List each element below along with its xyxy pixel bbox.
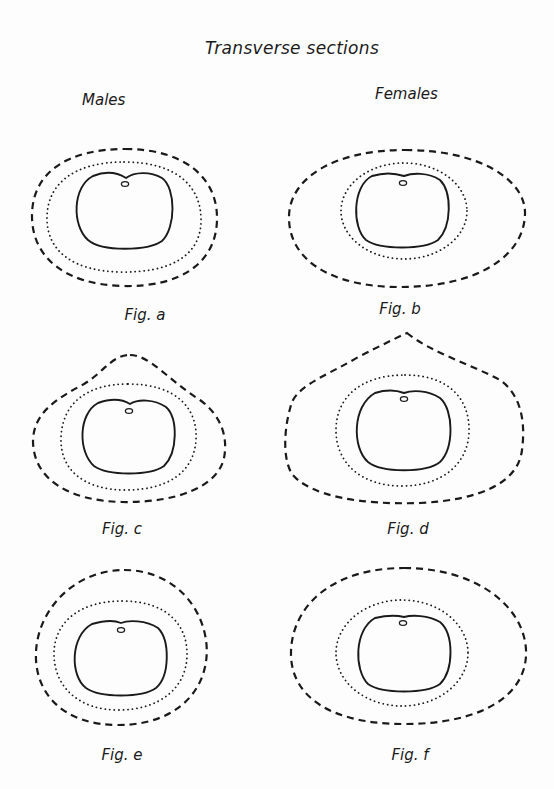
figure-e-label: Fig. e — [101, 746, 142, 764]
figure-b-nucleus-mark — [399, 181, 406, 186]
figure-a-inner-section — [77, 173, 173, 249]
figure-d-label: Fig. d — [387, 520, 428, 538]
figure-d-outer-boundary — [285, 333, 523, 503]
figure-f-inner-section — [358, 616, 450, 692]
figure-e-outer-boundary — [36, 570, 207, 725]
figure-b-inner-section — [356, 173, 449, 247]
diagram-page: Transverse sections Males Females — [0, 0, 554, 789]
figure-c-label: Fig. c — [102, 520, 142, 538]
figure-c — [33, 355, 225, 502]
figure-f-outer-boundary — [291, 568, 526, 724]
figure-c-inner-section — [82, 400, 174, 474]
figure-c-outer-boundary — [33, 355, 225, 502]
figure-a-nucleus-mark — [121, 182, 128, 187]
figure-f — [291, 568, 526, 724]
figure-a-label: Fig. a — [124, 306, 165, 324]
figure-d-inner-section — [357, 390, 451, 470]
figure-a — [32, 149, 217, 286]
figure-b-label: Fig. b — [379, 300, 420, 318]
figure-e — [36, 570, 207, 725]
figure-a-dotted-boundary — [47, 162, 201, 272]
figure-d — [285, 333, 523, 503]
transverse-sections-drawing — [0, 0, 554, 789]
figure-c-nucleus-mark — [125, 409, 132, 414]
figure-d-nucleus-mark — [400, 397, 407, 402]
figure-e-nucleus-mark — [117, 628, 124, 633]
figure-b-outer-boundary — [289, 150, 525, 287]
figure-b — [289, 150, 525, 287]
figure-a-outer-boundary — [32, 149, 217, 286]
figure-f-nucleus-mark — [399, 621, 406, 626]
figure-f-label: Fig. f — [391, 746, 428, 764]
